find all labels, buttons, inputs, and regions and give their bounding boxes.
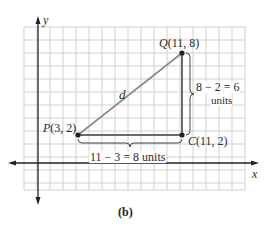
- point-q-label: Q(11, 8): [159, 37, 199, 49]
- point-c-name: C: [188, 134, 196, 148]
- x-axis-arrow-right-icon: [251, 161, 259, 166]
- x-axis-arrow-left-icon: [8, 161, 16, 166]
- point-q-coords: (11, 8): [168, 36, 200, 50]
- point-q-name: Q: [159, 36, 168, 50]
- point-c-coords: (11, 2): [196, 134, 228, 148]
- y-axis-arrow-up-icon: [36, 16, 41, 24]
- point-p-label: P(3, 2): [43, 122, 76, 134]
- horizontal-brace: [78, 139, 182, 147]
- segment-pq-hypotenuse: [78, 53, 182, 135]
- vertical-distance-annotation-line2: units: [211, 95, 232, 106]
- point-c: [179, 132, 184, 137]
- grid: [24, 27, 245, 190]
- coordinate-plane: [0, 0, 268, 229]
- horizontal-distance-annotation: 11 − 3 = 8 units: [89, 151, 166, 163]
- point-p-coords: (3, 2): [50, 121, 76, 135]
- y-axis-arrow-down-icon: [36, 197, 41, 205]
- x-axis-label: x: [252, 168, 257, 180]
- segment-d-label: d: [119, 88, 126, 101]
- figure-caption: (b): [118, 205, 133, 220]
- y-axis-label: y: [43, 14, 48, 26]
- vertical-distance-annotation-line1: 8 − 2 = 6: [196, 81, 240, 93]
- point-c-label: C(11, 2): [188, 135, 228, 147]
- point-q: [179, 50, 184, 55]
